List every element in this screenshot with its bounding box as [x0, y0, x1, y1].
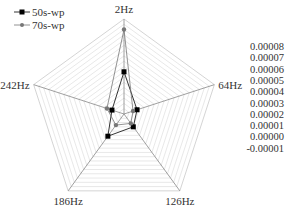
circle-marker-icon [20, 23, 24, 27]
legend: 50s-wp 70s-wp [14, 6, 65, 31]
legend-item-70s-wp: 70s-wp [14, 19, 65, 31]
circle-marker-icon [131, 109, 135, 113]
axis-label-2hz: 2Hz [115, 3, 133, 15]
square-marker-icon [109, 108, 114, 113]
square-marker-icon [20, 10, 25, 15]
radial-tick-label: 0.00002 [250, 109, 284, 120]
legend-label: 50s-wp [32, 6, 65, 18]
square-marker-icon [135, 107, 140, 112]
axis-label-186hz: 186Hz [53, 195, 82, 207]
circle-marker-icon [114, 123, 118, 127]
legend-label: 70s-wp [32, 19, 65, 31]
radial-tick-label: 0.00001 [250, 120, 284, 131]
radial-tick-label: 0.00005 [250, 75, 284, 86]
radial-tick-labels: 0.000080.000070.000060.000050.000040.000… [246, 41, 284, 154]
radar-chart: 2Hz64Hz126Hz186Hz242Hz 0.000080.000070.0… [0, 0, 288, 213]
radial-tick-label: 0.00000 [250, 131, 284, 142]
radial-tick-label: 0.00008 [250, 41, 284, 52]
radial-tick-label: -0.00001 [246, 143, 284, 154]
radial-tick-label: 0.00006 [250, 64, 284, 75]
axis-labels: 2Hz64Hz126Hz186Hz242Hz [0, 3, 242, 207]
axis-label-242hz: 242Hz [0, 79, 29, 91]
radar-chart-svg: 2Hz64Hz126Hz186Hz242Hz 0.000080.000070.0… [0, 0, 288, 213]
square-marker-icon [122, 69, 127, 74]
legend-item-50s-wp: 50s-wp [14, 6, 65, 18]
circle-marker-icon [105, 106, 109, 110]
axis-label-126hz: 126Hz [165, 195, 194, 207]
radial-tick-label: 0.00003 [250, 98, 284, 109]
circle-marker-icon [129, 121, 133, 125]
radar-series [105, 27, 140, 138]
axis-label-64hz: 64Hz [218, 79, 242, 91]
circle-marker-icon [122, 27, 126, 31]
radial-tick-label: 0.00004 [250, 86, 285, 97]
square-marker-icon [105, 134, 110, 139]
radial-tick-label: 0.00007 [250, 52, 284, 63]
